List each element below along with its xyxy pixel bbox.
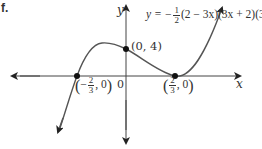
equation-rhs: (2 − 3x)(3x + 2)(3x − 2 — [181, 8, 262, 20]
part-label: f. — [1, 1, 8, 15]
point-y-intercept — [123, 46, 129, 52]
equation-label: y = −12(2 − 3x)(3x + 2)(3x − 2 — [146, 6, 262, 25]
x-axis-label: x — [236, 77, 243, 91]
function-curve — [59, 8, 222, 131]
equation-coefficient: 12 — [173, 6, 180, 25]
point-label-left-root: (−23, 0) — [75, 76, 112, 95]
curve-lower-arrow — [58, 118, 63, 132]
point-label-right-root: (23, 0) — [163, 76, 194, 95]
origin-label: 0 — [117, 78, 124, 91]
y-axis-label: y — [116, 3, 124, 17]
point-label-y-intercept: (0, 4) — [131, 39, 162, 53]
equation-lhs: y = − — [146, 8, 172, 20]
graph-figure: y x 0 (0, 4) f. y = −12(2 − 3x)(3x + 2)(… — [0, 0, 262, 149]
